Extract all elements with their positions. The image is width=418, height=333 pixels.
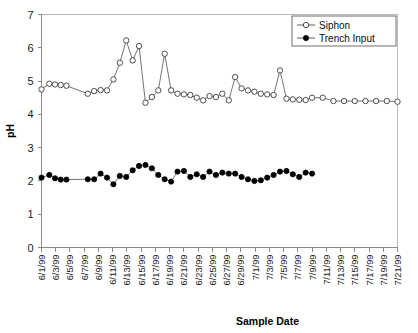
x-axis-tick-label: 6/3/99 [51, 255, 61, 281]
data-point [245, 177, 250, 182]
data-point [277, 68, 282, 73]
data-point [265, 175, 270, 180]
data-point [207, 93, 212, 98]
data-point [117, 173, 122, 178]
x-axis-title: Sample Date [236, 315, 299, 327]
data-point [252, 178, 257, 183]
x-axis-tick-label: 6/1/99 [37, 255, 47, 281]
data-point [233, 171, 238, 176]
data-point [162, 51, 167, 56]
data-point [265, 92, 270, 97]
x-axis-tick-label: 6/29/99 [236, 255, 246, 286]
x-axis-tick-label: 7/11/99 [322, 255, 332, 285]
x-axis-tick-label: 7/5/99 [279, 255, 289, 281]
data-point [47, 172, 52, 177]
data-point [207, 169, 212, 174]
data-point [188, 92, 193, 97]
data-point [331, 98, 336, 103]
data-point [277, 169, 282, 174]
data-point [175, 91, 180, 96]
data-point [117, 60, 122, 65]
data-point [143, 162, 148, 167]
data-point [39, 175, 44, 180]
x-axis-tick-label: 7/7/99 [293, 255, 303, 281]
data-point [188, 174, 193, 179]
data-point [245, 88, 250, 93]
legend-marker-2 [303, 35, 308, 40]
data-point [252, 89, 257, 94]
x-axis-tick-label: 6/15/99 [137, 255, 147, 286]
data-point [303, 97, 308, 102]
data-point [201, 174, 206, 179]
data-point [168, 88, 173, 93]
data-point [47, 81, 52, 86]
data-point [149, 94, 154, 99]
data-point [181, 168, 186, 173]
data-point [143, 100, 148, 105]
y-axis-tick-label: 3 [27, 142, 33, 154]
data-point [363, 98, 368, 103]
data-point [271, 92, 276, 97]
x-axis-tick-label: 7/13/99 [336, 255, 346, 286]
x-axis-tick-label: 7/3/99 [265, 255, 275, 281]
data-point [258, 178, 263, 183]
data-point [85, 177, 90, 182]
x-axis-tick-label: 6/19/99 [165, 255, 175, 286]
data-point [149, 166, 154, 171]
data-point [64, 83, 69, 88]
data-point [194, 95, 199, 100]
data-point [271, 172, 276, 177]
data-point [226, 171, 231, 176]
data-point [85, 91, 90, 96]
data-point [168, 179, 173, 184]
x-axis-tick-label: 6/9/99 [94, 255, 104, 281]
data-point [373, 98, 378, 103]
y-axis-title: pH [4, 124, 16, 138]
x-axis-tick-label: 6/7/99 [80, 255, 90, 281]
data-point [104, 175, 109, 180]
y-axis-tick-label: 0 [27, 242, 33, 254]
data-point [213, 172, 218, 177]
data-point [98, 171, 103, 176]
data-point [58, 82, 63, 87]
x-axis-tick-label: 7/17/99 [365, 255, 375, 286]
legend-label-2: Trench Input [319, 33, 375, 44]
data-point [213, 94, 218, 99]
data-point [162, 177, 167, 182]
data-point [104, 88, 109, 93]
ph-vs-sample-date-chart: 01234567pH6/1/996/3/996/5/996/7/996/9/99… [0, 0, 418, 333]
data-point [297, 97, 302, 102]
data-point [258, 91, 263, 96]
data-point [232, 74, 237, 79]
x-axis-tick-label: 7/21/99 [393, 255, 403, 286]
x-axis-tick-label: 6/21/99 [179, 255, 189, 286]
x-axis-tick-label: 7/9/99 [308, 255, 318, 281]
data-point [136, 163, 141, 168]
x-axis-tick-label: 6/27/99 [222, 255, 232, 286]
y-axis-tick-label: 4 [27, 108, 33, 120]
data-point [92, 177, 97, 182]
data-point [220, 91, 225, 96]
data-point [239, 174, 244, 179]
legend-label-1: Siphon [319, 20, 350, 31]
y-axis-tick-label: 5 [27, 75, 33, 87]
data-point [91, 88, 96, 93]
data-point [226, 98, 231, 103]
data-point [320, 95, 325, 100]
y-axis-tick-label: 1 [27, 208, 33, 220]
x-axis-tick-label: 6/11/99 [108, 255, 118, 285]
x-axis-tick-label: 6/13/99 [122, 255, 132, 286]
data-point [111, 77, 116, 82]
data-point [136, 43, 141, 48]
data-point [200, 98, 205, 103]
data-point [284, 96, 289, 101]
data-point [64, 177, 69, 182]
data-point [39, 87, 44, 92]
x-axis-tick-label: 7/15/99 [350, 255, 360, 286]
data-point [58, 177, 63, 182]
data-point [220, 170, 225, 175]
data-point [290, 172, 295, 177]
data-point [395, 99, 400, 104]
x-axis-tick-label: 6/25/99 [208, 255, 218, 286]
x-axis-tick-label: 6/23/99 [194, 255, 204, 286]
